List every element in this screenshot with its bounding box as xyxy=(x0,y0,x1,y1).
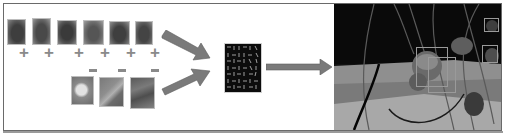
plus-sign-2: + xyxy=(42,44,56,61)
hog-cells-icon xyxy=(225,44,261,92)
diagram-title: Strawberry detection pipeline xyxy=(0,0,1,1)
hog-feature-visualization: HOG feature visualization xyxy=(224,43,262,93)
arrow-negative-to-features-icon xyxy=(160,67,212,97)
negative-patch-3 xyxy=(130,77,155,109)
minus-sign-2 xyxy=(118,69,126,72)
negative-samples-label: negative training patches xyxy=(0,0,1,1)
positive-patch-6 xyxy=(135,21,153,45)
plus-sign-1: + xyxy=(17,44,31,61)
positive-samples-label: positive training patches xyxy=(0,0,1,1)
minus-sign-1 xyxy=(89,69,97,72)
negative-patch-2 xyxy=(99,77,124,107)
minus-sign-3 xyxy=(151,69,159,72)
frame-bottom-shadow xyxy=(3,131,503,133)
positive-patch-1 xyxy=(7,19,26,45)
negative-patch-1 xyxy=(71,76,94,105)
positive-patch-5 xyxy=(109,21,130,45)
arrow-features-to-result-icon xyxy=(266,59,332,75)
positive-patch-2 xyxy=(32,18,51,45)
detection-result-image: detection result xyxy=(334,4,501,130)
detection-box-3 xyxy=(482,45,498,63)
detection-box-4 xyxy=(484,18,499,32)
positive-patch-4 xyxy=(83,20,104,45)
arrow-positive-to-features-icon xyxy=(160,30,212,66)
detection-box-2 xyxy=(428,57,456,93)
positive-patch-3 xyxy=(57,20,77,45)
plus-sign-5: + xyxy=(124,44,138,61)
plus-sign-4: + xyxy=(98,44,112,61)
plus-sign-3: + xyxy=(72,44,86,61)
